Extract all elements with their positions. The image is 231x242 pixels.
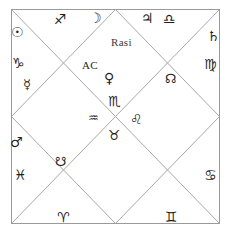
sign-scorpio-glyph: ♏	[108, 94, 121, 108]
planet-jupiter-glyph: ♃	[141, 11, 154, 25]
planet-rahu-glyph: ☊	[165, 72, 177, 85]
planet-ketu-glyph: ☋	[55, 155, 67, 168]
sign-aries-glyph: ♈	[57, 210, 70, 224]
chart-title: Rasi	[111, 37, 132, 48]
planet-moon-glyph: ☽	[89, 11, 102, 25]
sign-pisces-glyph: ♓	[14, 168, 27, 182]
sign-virgo-glyph: ♍	[204, 57, 217, 71]
planet-mercury-glyph: ☿	[23, 78, 31, 91]
sign-sagittarius-glyph: ♐	[54, 12, 67, 26]
planet-sun-glyph: ☉	[11, 25, 24, 39]
planet-mars-glyph: ♂	[10, 135, 23, 149]
ascendant-label: AC	[82, 60, 98, 71]
rasi-chart: Rasi AC ☉ ☽ ☿ ♀ ♂ ♃ ♄ ☊ ☋ ♐ ♑ ♒ ♓ ♈ ♉ ♊ …	[0, 0, 231, 242]
sign-cancer-glyph: ♋	[204, 168, 217, 182]
sign-capricorn-glyph: ♑	[12, 56, 25, 70]
sign-libra-glyph: ♎	[163, 12, 176, 26]
planet-saturn-glyph: ♄	[207, 29, 220, 43]
sign-aquarius-glyph: ♒	[88, 112, 99, 124]
planet-venus-glyph: ♀	[104, 71, 114, 85]
sign-taurus-glyph: ♉	[108, 128, 121, 142]
sign-gemini-glyph: ♊	[165, 210, 178, 224]
sign-leo-glyph: ♌	[130, 112, 143, 126]
